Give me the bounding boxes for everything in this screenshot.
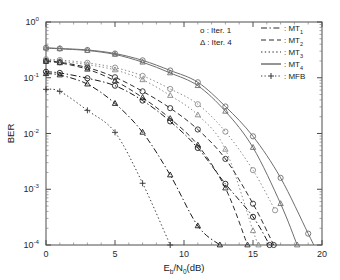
legend-style-label: : MT2 — [284, 36, 303, 47]
series-line — [46, 74, 220, 245]
y-tick-exponent: -3 — [33, 182, 39, 189]
y-tick-label: 10-1 — [23, 71, 39, 83]
y-tick-exponent: -1 — [33, 71, 39, 78]
chart-figure: 0510152010010-110-210-310-4Eb/N0(dB)BER … — [0, 0, 340, 280]
curves — [46, 48, 322, 262]
marker-circle — [168, 106, 173, 111]
legend-subscript: 1 — [300, 29, 303, 35]
series-line — [46, 60, 259, 245]
legend-subscript: 4 — [300, 65, 303, 71]
legend-style-label: : MT4 — [284, 60, 303, 71]
legend-subscript: 3 — [300, 53, 303, 59]
y-tick-exponent: -4 — [33, 238, 39, 245]
series-line — [46, 72, 270, 245]
legend-style-label: : MT3 — [284, 48, 303, 59]
marker-triangle — [217, 242, 222, 247]
legend-marker-label: Δ : Iter. 4 — [200, 38, 232, 47]
axes — [46, 22, 322, 245]
x-label-tail: (dB) — [187, 262, 205, 273]
x-tick-label: 15 — [248, 249, 258, 259]
y-tick-label: 10-3 — [23, 182, 39, 194]
series-line — [46, 59, 275, 210]
x-label-mid: /N — [173, 262, 183, 273]
legend-marker-label: o : Iter. 1 — [200, 26, 232, 35]
marker-circle — [250, 201, 255, 206]
plot-border — [46, 22, 322, 245]
y-tick-label: 10-2 — [23, 127, 39, 139]
legend-style-label: : MT1 — [284, 24, 303, 35]
series-line — [46, 48, 322, 262]
x-tick-label: 20 — [317, 249, 327, 259]
marker-circle — [140, 89, 145, 94]
marker-circle — [168, 86, 173, 91]
x-tick-label: 10 — [179, 249, 189, 259]
marker-triangle — [250, 228, 255, 233]
x-tick-label: 5 — [112, 249, 117, 259]
legend-subscript: 2 — [300, 41, 303, 47]
y-tick-label: 100 — [26, 15, 40, 27]
marker-circle — [223, 129, 228, 134]
series-line — [46, 89, 170, 245]
marker-triangle — [256, 242, 261, 247]
marker-circle — [250, 168, 255, 173]
x-axis-label: Eb/N0(dB) — [163, 262, 204, 275]
y-axis-label: BER — [5, 124, 16, 144]
y-tick-exponent: -2 — [33, 127, 39, 134]
series-line — [46, 62, 247, 245]
ber-plot: 0510152010010-110-210-310-4Eb/N0(dB)BER … — [0, 0, 340, 280]
legend-style-label: : MFB — [284, 72, 305, 81]
y-tick-label: 10-4 — [23, 238, 39, 250]
x-tick-label: 0 — [43, 249, 48, 259]
y-tick-exponent: 0 — [36, 15, 40, 22]
legend: o : Iter. 1Δ : Iter. 4: MT1: MT2: MT3: M… — [200, 24, 305, 81]
